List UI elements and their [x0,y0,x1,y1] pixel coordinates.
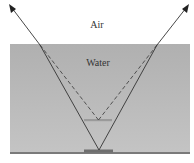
air-label: Air [90,19,104,30]
refraction-diagram: Air Water [0,0,194,163]
ray-in-air-left [12,8,40,45]
ray-in-air-right [157,8,186,45]
water-label: Water [86,57,110,68]
